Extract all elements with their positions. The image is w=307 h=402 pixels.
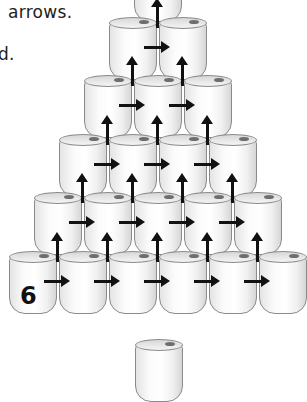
right-arrow-icon — [94, 163, 112, 166]
up-arrow-icon — [231, 181, 234, 203]
up-arrow-icon — [106, 240, 109, 262]
up-arrow-icon — [131, 181, 134, 203]
up-arrow-icon — [131, 64, 134, 86]
bottom-left-can-label: 6 — [20, 282, 37, 310]
right-arrow-icon — [169, 221, 187, 224]
right-arrow-icon — [219, 221, 237, 224]
loose-can — [134, 338, 184, 402]
up-arrow-icon — [56, 240, 59, 262]
up-arrow-icon — [181, 181, 184, 203]
right-arrow-icon — [244, 280, 262, 283]
up-arrow-icon — [181, 64, 184, 86]
up-arrow-icon — [156, 123, 159, 145]
right-arrow-icon — [144, 46, 162, 49]
up-arrow-icon — [206, 123, 209, 145]
up-arrow-icon — [256, 240, 259, 262]
up-arrow-icon — [106, 123, 109, 145]
instruction-text-line-2: d. — [0, 44, 15, 64]
right-arrow-icon — [94, 280, 112, 283]
right-arrow-icon — [194, 280, 212, 283]
right-arrow-icon — [169, 104, 187, 107]
up-arrow-icon — [206, 240, 209, 262]
right-arrow-icon — [144, 163, 162, 166]
up-arrow-icon — [81, 181, 84, 203]
right-arrow-icon — [144, 280, 162, 283]
up-arrow-icon — [156, 6, 159, 28]
instruction-text-line-1: arrows. — [8, 2, 72, 22]
up-arrow-icon — [156, 240, 159, 262]
right-arrow-icon — [194, 163, 212, 166]
right-arrow-icon — [69, 221, 87, 224]
right-arrow-icon — [119, 221, 137, 224]
right-arrow-icon — [44, 280, 62, 283]
right-arrow-icon — [119, 104, 137, 107]
